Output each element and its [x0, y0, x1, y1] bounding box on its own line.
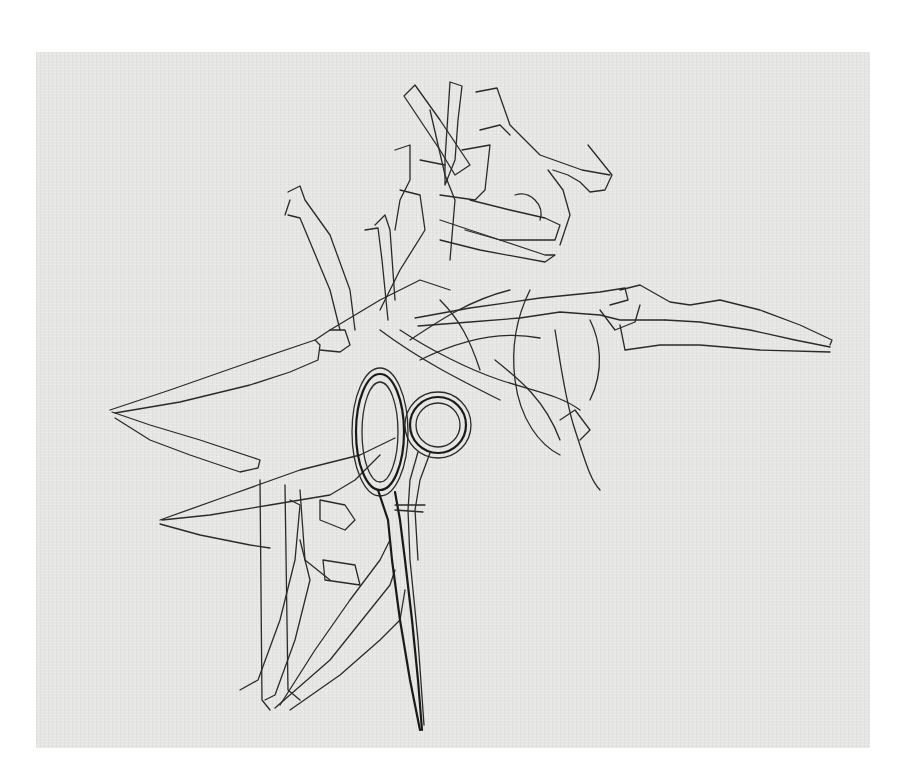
open-blades-left-upper	[110, 280, 450, 472]
open-blades-right	[415, 285, 832, 352]
open-blades-left-lower	[160, 438, 395, 710]
artwork-drawing	[0, 0, 906, 779]
tape-strip-left	[285, 186, 425, 330]
blades-bottom-fan	[240, 500, 405, 710]
tape-strips	[395, 82, 612, 262]
closed-scissors	[352, 368, 471, 730]
